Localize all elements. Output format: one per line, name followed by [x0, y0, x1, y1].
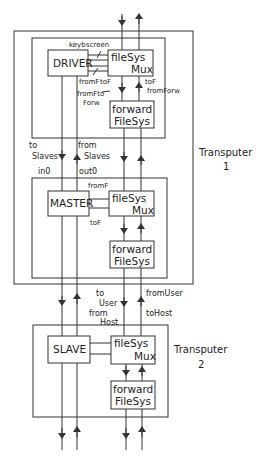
transputer-2-number: 2	[198, 359, 204, 370]
from-user-label: fromUser	[146, 289, 184, 298]
from-slaves-label-1: from	[78, 141, 97, 150]
transputer-2-label: Transputer	[173, 344, 228, 355]
toF-right-label: toF	[145, 78, 156, 86]
transputer-1-label: Transputer	[198, 147, 253, 158]
to-user-label-1: to	[96, 289, 104, 298]
forward-1-label-line1: forward	[112, 103, 152, 115]
transputer-1-number: 1	[223, 161, 229, 172]
forward-3-label-line2: FileSys	[115, 395, 151, 407]
from-host-label-2: Host	[100, 318, 118, 327]
mux-1-label-line2: Mux	[131, 63, 153, 75]
fromFtoForw-label-2: Forw	[83, 99, 100, 107]
master-toF-label: toF	[90, 219, 101, 227]
from-host-label-1: from	[89, 309, 108, 318]
mux-3-label-line2: Mux	[134, 350, 156, 362]
fromForw-label: fromForw	[147, 87, 180, 95]
slave-label: SLAVE	[53, 343, 86, 355]
keyb-label: keyb	[69, 41, 86, 49]
forward-1-label-line2: FileSys	[114, 115, 150, 127]
forward-2-label-line1: forward	[112, 243, 152, 255]
to-host-label: toHost	[146, 309, 172, 318]
from-slaves-label-2: Slaves	[84, 152, 110, 161]
toF-label: toF	[100, 78, 111, 86]
to-slaves-label-2: Slaves	[32, 152, 58, 161]
forward-3-label-line1: forward	[113, 383, 153, 395]
fromFtoForw-label-1: fromFto	[77, 90, 104, 98]
master-label: MASTER	[50, 197, 93, 209]
in0-label: in0	[38, 167, 50, 176]
forward-2-label-line2: FileSys	[114, 255, 150, 267]
to-slaves-label-1: to	[29, 141, 37, 150]
mux-2-label-line1: fileSys	[112, 192, 146, 204]
mux-2-label-line2: Mux	[132, 204, 154, 216]
out0-label: out0	[79, 167, 97, 176]
mux-3-label-line1: fileSys	[114, 337, 148, 349]
to-user-label-2: User	[99, 299, 118, 308]
master-fromF-label: fromF	[88, 182, 108, 190]
transputer-diagram: DRIVER fileSys Mux forward FileSys keyb …	[0, 0, 270, 462]
screen-label: screen	[86, 41, 109, 49]
mux-1-label-line1: fileSys	[111, 51, 145, 63]
driver-label: DRIVER	[53, 57, 93, 69]
fromF-label: fromF	[79, 78, 99, 86]
